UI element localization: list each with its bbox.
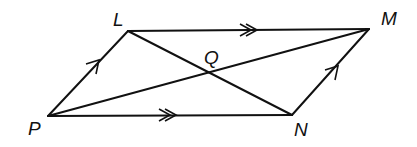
- vertex-label-M: M: [381, 8, 397, 29]
- parallel-arrow-NM: [325, 66, 338, 80]
- vertex-label-L: L: [113, 9, 124, 30]
- vertex-label-P: P: [28, 118, 41, 139]
- diagonal-LN: [128, 31, 292, 115]
- intersection-label-Q: Q: [204, 47, 219, 68]
- side-PL: [48, 31, 128, 116]
- parallelogram-diagram: L M P N Q: [0, 0, 417, 147]
- side-MN: [292, 29, 369, 115]
- parallel-arrow-PL: [86, 60, 99, 74]
- vertex-label-N: N: [294, 119, 308, 140]
